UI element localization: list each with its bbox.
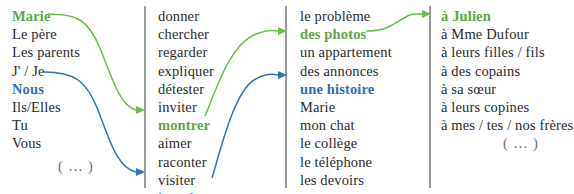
list-item[interactable]: un appartement: [300, 43, 392, 61]
list-item[interactable]: mon chat: [300, 116, 392, 134]
list-item[interactable]: Vous: [12, 134, 94, 152]
list-item[interactable]: le problème: [300, 7, 392, 25]
column-verb: donner chercher regarder expliquer détes…: [158, 0, 278, 194]
column-divider-3: [429, 6, 431, 188]
list-item[interactable]: à Mme Dufour: [441, 25, 573, 43]
list-item[interactable]: inviter: [158, 98, 215, 116]
list-item[interactable]: chercher: [158, 25, 215, 43]
list-item[interactable]: raconter: [158, 153, 215, 171]
column-indirect-object: à Julien à Mme Dufour à leurs filles / f…: [441, 0, 574, 194]
list-item[interactable]: Tu: [12, 116, 94, 134]
list-ellipsis: ( … ): [58, 157, 94, 175]
column-divider-1: [144, 6, 146, 188]
list-item[interactable]: Ils/Elles: [12, 98, 94, 116]
list-item[interactable]: montrer: [158, 116, 215, 134]
list-item[interactable]: regarder: [158, 43, 215, 61]
list-item[interactable]: Nous: [12, 80, 94, 98]
column-subject: Marie Le père Les parents J' / Je Nous I…: [12, 0, 142, 194]
list-item[interactable]: le téléphone: [300, 153, 392, 171]
list-item[interactable]: donner: [158, 7, 215, 25]
list-item[interactable]: J' / Je: [12, 62, 94, 80]
column-divider-2: [285, 6, 287, 188]
list-item[interactable]: à leurs filles / fils: [441, 43, 573, 61]
list-item[interactable]: Marie: [12, 7, 94, 25]
list-item[interactable]: des photos: [300, 25, 392, 43]
list-item[interactable]: à sa sœur: [441, 80, 573, 98]
list-item[interactable]: le collège: [300, 134, 392, 152]
list-item[interactable]: Le père: [12, 25, 94, 43]
list-ellipsis: ( … ): [350, 191, 392, 194]
list-item[interactable]: Les parents: [12, 43, 94, 61]
list-item[interactable]: à des copains: [441, 62, 573, 80]
list-item[interactable]: expliquer: [158, 62, 215, 80]
list-item[interactable]: à Julien: [441, 7, 573, 25]
list-item[interactable]: aimer: [158, 134, 215, 152]
list-item[interactable]: imaginer: [158, 189, 215, 194]
list-item[interactable]: les devoirs: [300, 171, 392, 189]
list-item[interactable]: des annonces: [300, 62, 392, 80]
list-ellipsis: ( … ): [503, 134, 573, 152]
list-item[interactable]: une histoire: [300, 80, 392, 98]
column-direct-object: le problème des photos un appartement de…: [300, 0, 425, 194]
list-item[interactable]: à mes / tes / nos frères: [441, 116, 573, 134]
list-item[interactable]: détester: [158, 80, 215, 98]
sentence-builder-diagram: Marie Le père Les parents J' / Je Nous I…: [0, 0, 574, 194]
list-item[interactable]: Marie: [300, 98, 392, 116]
list-item[interactable]: visiter: [158, 171, 215, 189]
list-item[interactable]: à leurs copines: [441, 98, 573, 116]
